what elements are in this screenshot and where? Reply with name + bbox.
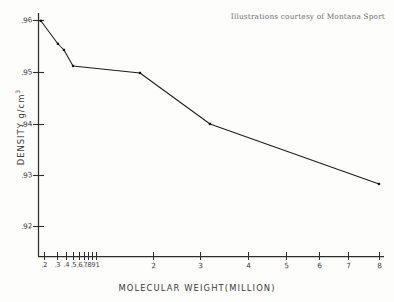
data-point-markers	[40, 20, 380, 185]
x-tick-label-major-6: 8	[373, 261, 387, 271]
x-tick-label-major-0: 2	[147, 261, 161, 271]
plot-area: .96 .95 .94 .93 .92 .2 .3 .4 .5 .6 .7 .8…	[0, 0, 394, 302]
x-tick-label-minor-0: .2	[38, 261, 52, 270]
y-axis-title-wrapper: DENSITY g/cm3	[10, 62, 28, 192]
x-tick-label-major-3: 5	[280, 261, 294, 271]
x-tick-label-major-2: 4	[242, 261, 256, 271]
data-series-line	[41, 21, 379, 184]
chart-page: Illustrations courtesy of Montana Sport	[0, 0, 394, 302]
x-tick-label-minor-8: 1	[91, 261, 105, 270]
y-axis-title-exponent: 3	[14, 89, 21, 94]
x-tick-label-major-1: 3	[194, 261, 208, 271]
x-tick-label-major-4: 6	[313, 261, 327, 271]
x-tick-label-major-5: 7	[342, 261, 356, 271]
chart-canvas	[0, 0, 394, 302]
y-axis-title-text: DENSITY g/cm	[16, 94, 26, 166]
y-axis-title: DENSITY g/cm3	[16, 89, 26, 165]
x-axis-title: MOLECULAR WEIGHT(MILLION)	[0, 283, 394, 293]
